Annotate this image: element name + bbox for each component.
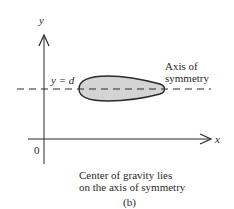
line-equation-label: y = d bbox=[51, 75, 74, 86]
x-axis-label: x bbox=[215, 134, 220, 145]
axis-of-symmetry-label-line1: Axis of bbox=[165, 61, 198, 72]
caption-line-1: Center of gravity lies bbox=[79, 169, 172, 181]
caption-line-2: on the axis of symmetry bbox=[79, 181, 185, 193]
axis-of-symmetry-label-line2: symmetry bbox=[165, 73, 209, 84]
origin-label: 0 bbox=[34, 145, 40, 156]
figure-sublabel: (b) bbox=[123, 196, 136, 208]
y-axis-label: y bbox=[39, 15, 44, 26]
